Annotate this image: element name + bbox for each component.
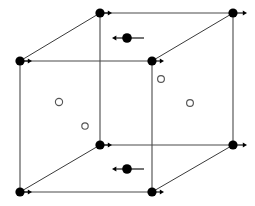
lattice-diagram-svg: Cubic unit cell with lattice-site atoms,… (0, 0, 255, 206)
interstitial-site-interstitial-4 (187, 100, 194, 107)
lattice-site-atom-front-top-right (147, 56, 156, 65)
interstitial-site-interstitial-1 (55, 98, 62, 105)
lattice-site-atom-front-bottom-right (147, 187, 156, 196)
lattice-site-atom-front-bottom-left (15, 187, 24, 196)
lattice-site-atom-back-top-left (95, 8, 104, 17)
lattice-figure: Cubic unit cell with lattice-site atoms,… (0, 0, 255, 206)
bottom-face-atom-atom (122, 164, 132, 174)
lattice-site-atom-front-top-left (15, 56, 24, 65)
lattice-site-atom-back-bottom-right (228, 140, 237, 149)
lattice-site-atom-back-top-right (228, 8, 237, 17)
lattice-site-atom-back-bottom-left (95, 140, 104, 149)
top-face-atom-atom (122, 33, 132, 43)
interstitial-site-interstitial-3 (158, 76, 165, 83)
interstitial-site-interstitial-2 (82, 123, 88, 129)
figure-background (0, 0, 255, 206)
